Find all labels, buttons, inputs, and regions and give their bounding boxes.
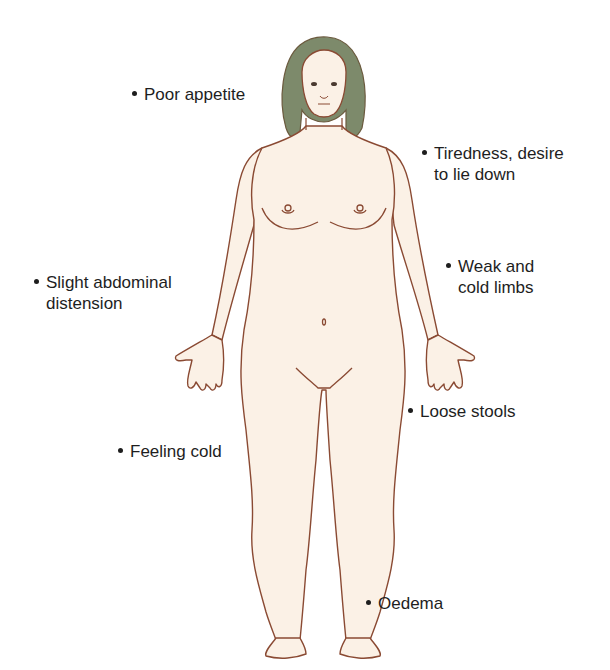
label-text-line2: distension <box>34 293 172 314</box>
body-outline <box>175 126 474 658</box>
label-loose-stools: Loose stools <box>408 401 515 422</box>
label-text: Poor appetite <box>144 85 245 104</box>
label-feeling-cold: Feeling cold <box>118 441 222 462</box>
label-text: Feeling cold <box>130 442 222 461</box>
label-text-line2: to lie down <box>422 164 564 185</box>
label-text: Weak and <box>458 257 534 276</box>
label-weak-cold-limbs: Weak and cold limbs <box>446 256 534 298</box>
label-text: Oedema <box>378 594 443 613</box>
bullet-icon <box>118 448 123 453</box>
body-figure-illustration <box>0 0 610 670</box>
label-poor-appetite: Poor appetite <box>132 84 245 105</box>
bullet-icon <box>366 600 371 605</box>
bullet-icon <box>34 279 39 284</box>
label-text: Tiredness, desire <box>434 144 564 163</box>
label-text: Loose stools <box>420 402 515 421</box>
label-oedema: Oedema <box>366 593 443 614</box>
label-text: Slight abdominal <box>46 273 172 292</box>
label-tiredness: Tiredness, desire to lie down <box>422 143 564 185</box>
label-abdominal-distension: Slight abdominal distension <box>34 272 172 314</box>
bullet-icon <box>446 263 451 268</box>
label-text-line2: cold limbs <box>446 277 534 298</box>
bullet-icon <box>422 150 427 155</box>
bullet-icon <box>132 91 137 96</box>
bullet-icon <box>408 408 413 413</box>
